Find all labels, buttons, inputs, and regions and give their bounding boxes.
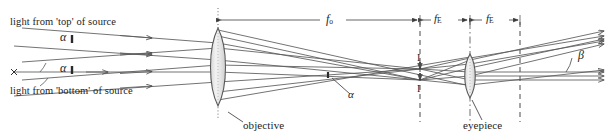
dimension-lines: [221, 15, 520, 25]
f-eyepiece-1-subscript: E: [437, 16, 442, 25]
focal-length-objective-label: fo: [326, 12, 333, 27]
objective-leader: [228, 112, 243, 122]
eyepiece-leader: [472, 100, 482, 120]
eyepiece-caption: eyepiece: [463, 119, 502, 131]
focal-length-eyepiece-2-label: fE: [486, 12, 494, 25]
alpha-top-label: α: [60, 30, 66, 45]
image-upper-label: I: [417, 52, 420, 63]
alpha-bottom-label: α: [60, 61, 66, 76]
beta-label: β: [578, 48, 584, 63]
top-source-label: light from 'top' of source: [10, 16, 116, 27]
f-eyepiece-2-subscript: E: [489, 16, 494, 25]
objective-lens: [211, 28, 226, 106]
beta-arc: [566, 58, 572, 72]
optics-ray-diagram-figure: light from 'top' of source light from 'b…: [0, 0, 614, 139]
eyepiece-lens: [465, 54, 476, 98]
image-lower-label: I: [417, 83, 420, 94]
objective-to-image-rays: [218, 30, 470, 100]
ray-bottom-3: [22, 65, 218, 80]
alpha-middle-label: α: [348, 88, 354, 100]
focal-length-eyepiece-1-label: fE: [434, 12, 442, 25]
callout-leader-lines: [228, 72, 482, 122]
bottom-source-label: light from 'bottom' of source: [10, 85, 133, 96]
objective-caption: objective: [243, 119, 284, 131]
f-objective-subscript: o: [329, 17, 333, 26]
ray-top-2: [14, 46, 218, 60]
alpha-arc-top: [40, 63, 46, 72]
